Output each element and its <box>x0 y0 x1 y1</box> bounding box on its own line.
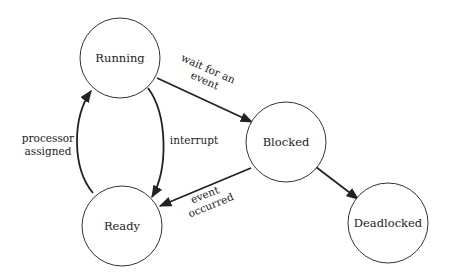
node-running-label: Running <box>95 51 145 65</box>
node-blocked-label: Blocked <box>263 135 310 149</box>
arrow-running-ready <box>148 88 164 197</box>
edge-blocked-to-ready: event occurred <box>160 168 251 219</box>
node-deadlocked: Deadlocked <box>348 183 428 263</box>
node-ready: Ready <box>82 186 162 266</box>
node-ready-label: Ready <box>104 219 141 233</box>
node-deadlocked-label: Deadlocked <box>354 216 423 230</box>
edge-blocked-to-deadlocked <box>316 167 358 199</box>
arrow-blocked-deadlocked <box>316 167 358 199</box>
edge-label-interrupt: interrupt <box>170 134 219 146</box>
state-diagram: wait for an event interrupt processor as… <box>0 0 450 280</box>
node-blocked: Blocked <box>246 102 326 182</box>
edge-label-assigned: assigned <box>25 145 72 157</box>
edge-running-to-blocked: wait for an event <box>157 51 252 122</box>
edge-ready-to-running: processor assigned <box>22 91 93 193</box>
node-running: Running <box>80 18 160 98</box>
edge-label-processor: processor <box>22 132 75 144</box>
arrow-ready-running <box>77 91 93 193</box>
edge-running-to-ready: interrupt <box>148 88 219 197</box>
